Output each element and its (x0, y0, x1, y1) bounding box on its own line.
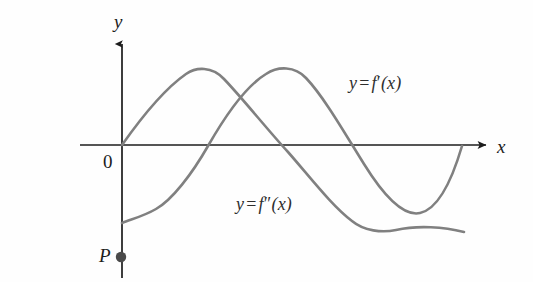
point-p-label: P (99, 246, 111, 265)
fprime-arg: (x) (381, 73, 402, 93)
curve-label-second-derivative: y=f″(x) (236, 195, 292, 213)
fprime-lhs: y (349, 73, 357, 93)
fdprime-lhs: y (236, 194, 244, 214)
fdprime-arg: (x) (271, 194, 292, 214)
point-p-marker (116, 252, 126, 262)
curve-second-derivative (122, 69, 464, 232)
figure-canvas: y x 0 P y=f′(x) y=f″(x) (0, 0, 533, 282)
fprime-operator: = (357, 73, 371, 93)
x-axis-label: x (497, 137, 505, 156)
curve-label-first-derivative: y=f′(x) (349, 74, 401, 92)
graph-plot-area (0, 0, 533, 282)
fdprime-operator: = (244, 194, 258, 214)
origin-label: 0 (103, 152, 113, 171)
y-axis-label: y (114, 12, 122, 31)
